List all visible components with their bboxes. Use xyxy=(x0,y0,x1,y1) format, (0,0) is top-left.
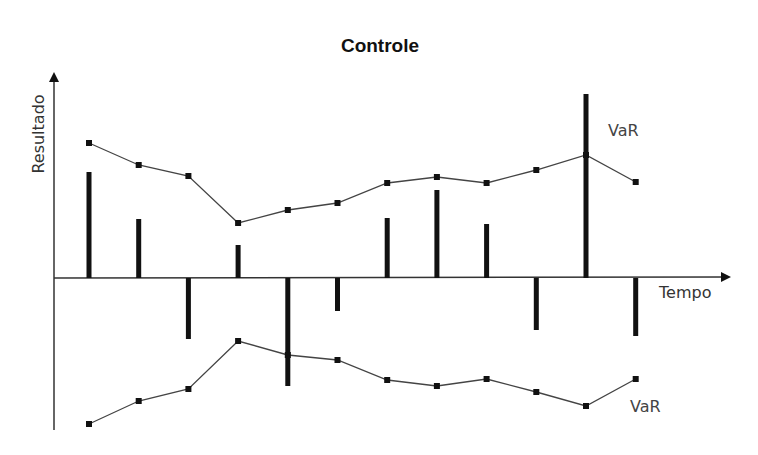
var-marker xyxy=(633,179,639,185)
result-bar xyxy=(534,278,539,330)
result-bar xyxy=(584,94,589,278)
var-marker xyxy=(136,162,142,168)
result-bar xyxy=(186,278,191,339)
result-bar xyxy=(484,224,489,278)
chart-title: Controle xyxy=(341,35,419,56)
var-marker xyxy=(335,200,341,206)
x-axis-label: Tempo xyxy=(658,283,711,302)
result-bar xyxy=(335,278,340,311)
var-marker xyxy=(335,357,341,363)
var-lines xyxy=(86,140,639,427)
var-marker xyxy=(583,403,589,409)
var-marker xyxy=(384,180,390,186)
var-marker xyxy=(533,167,539,173)
var-marker xyxy=(484,376,490,382)
y-axis-label: Resultado xyxy=(29,94,48,173)
var-marker xyxy=(285,207,291,213)
var-upper-label: VaR xyxy=(608,121,639,140)
var-marker xyxy=(633,376,639,382)
var-marker xyxy=(285,352,291,358)
chart: Controle Resultado Tempo VaR VaR xyxy=(0,0,758,455)
var-marker xyxy=(185,386,191,392)
result-bar xyxy=(87,172,92,278)
var-marker xyxy=(86,421,92,427)
result-bar xyxy=(285,278,290,386)
var-marker xyxy=(583,152,589,158)
var-marker xyxy=(484,180,490,186)
var-marker xyxy=(384,377,390,383)
var-marker xyxy=(185,173,191,179)
result-bar xyxy=(633,278,638,336)
result-bars xyxy=(87,94,639,386)
var-marker xyxy=(136,398,142,404)
result-bar xyxy=(136,219,141,278)
var-marker xyxy=(235,220,241,226)
x-axis xyxy=(54,277,729,278)
var-line xyxy=(89,143,636,223)
var-marker xyxy=(235,338,241,344)
result-bar xyxy=(385,218,390,278)
var-lower-label: VaR xyxy=(630,397,661,416)
var-marker xyxy=(533,389,539,395)
result-bar xyxy=(236,245,241,278)
var-line xyxy=(89,341,636,424)
result-bar xyxy=(434,190,439,278)
var-marker xyxy=(434,174,440,180)
var-marker xyxy=(86,140,92,146)
var-marker xyxy=(434,383,440,389)
